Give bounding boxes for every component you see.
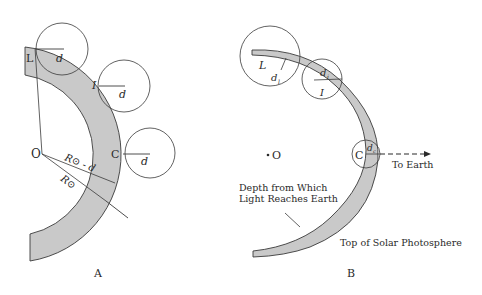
label-d-I-a: d bbox=[119, 88, 126, 101]
label-I-b: I bbox=[319, 87, 325, 98]
label-C-a: C bbox=[111, 148, 119, 161]
to-earth-label: To Earth bbox=[392, 159, 433, 170]
center-dot-b bbox=[267, 154, 270, 157]
label-radius-outer: R⊙ bbox=[58, 172, 78, 191]
label-L-b: L bbox=[258, 59, 266, 72]
arrowhead-icon bbox=[424, 151, 431, 157]
label-d-L-sub: l bbox=[278, 78, 280, 85]
label-d-L-a: d bbox=[56, 52, 63, 65]
depth-caption-line2: Light Reaches Earth bbox=[239, 193, 338, 204]
panel-b: L d l d i I C d c O To Earth Depth from … bbox=[239, 26, 462, 280]
depth-line-L bbox=[281, 58, 286, 70]
label-d-L-b: d bbox=[271, 72, 277, 83]
label-C-b: C bbox=[355, 149, 363, 162]
label-d-I-sub: i bbox=[327, 73, 329, 80]
depth-caption-line1: Depth from Which bbox=[239, 182, 327, 193]
label-d-C-a: d bbox=[141, 155, 148, 168]
label-d-I-b: d bbox=[320, 67, 326, 78]
panel-a: L d I d C d O R⊙ - d R⊙ A bbox=[25, 23, 175, 280]
caption-b: B bbox=[347, 267, 355, 280]
label-radius-inner: R⊙ - d bbox=[62, 151, 97, 174]
label-O-b: O bbox=[272, 149, 281, 162]
circle-C bbox=[125, 128, 175, 178]
solar-limb-diagram: L d I d C d O R⊙ - d R⊙ A L d l d i I bbox=[0, 0, 482, 295]
radial-cut-line bbox=[106, 201, 128, 218]
label-d-C-sub: c bbox=[373, 148, 376, 154]
label-O-a: O bbox=[31, 147, 41, 161]
caption-a: A bbox=[93, 267, 103, 280]
label-L-a: L bbox=[26, 52, 34, 65]
surface-caption: Top of Solar Photosphere bbox=[340, 237, 462, 248]
depth-caption-pointer bbox=[285, 213, 300, 227]
label-I-a: I bbox=[91, 79, 97, 92]
